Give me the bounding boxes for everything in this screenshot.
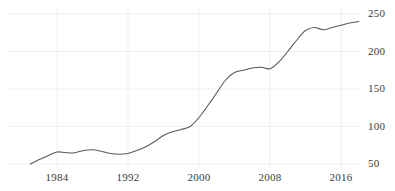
x-tick-label: 2016 — [330, 171, 353, 183]
y-tick-label: 150 — [368, 82, 385, 94]
x-tick-label: 2000 — [188, 171, 211, 183]
horizontal-gridlines — [8, 14, 362, 164]
y-tick-label: 100 — [368, 120, 385, 132]
line-chart: 50100150200250 19841992200020082016 — [0, 0, 395, 191]
x-tick-label: 1992 — [117, 171, 140, 183]
chart-plot-area — [0, 0, 395, 191]
x-tick-label: 2008 — [259, 171, 282, 183]
x-tick-label: 1984 — [46, 171, 69, 183]
y-tick-label: 50 — [368, 157, 379, 169]
y-tick-label: 250 — [368, 7, 385, 19]
data-line-series-1 — [30, 22, 358, 165]
vertical-gridlines — [57, 8, 341, 168]
y-tick-label: 200 — [368, 45, 385, 57]
